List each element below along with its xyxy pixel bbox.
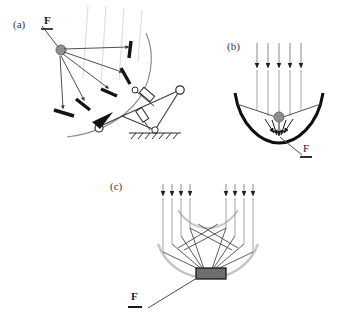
- panel-a-pivot-rim: [132, 87, 138, 93]
- panel-a-focus-label: F: [44, 14, 51, 26]
- panel-c-reflector-arc-upper: [178, 210, 238, 228]
- panel-a-focal-rays: [60, 47, 128, 108]
- panel-c-incident-rays-left: [163, 184, 190, 196]
- panel-a-label: (a): [13, 18, 26, 31]
- panel-a-pivot-outer: [176, 86, 184, 94]
- figure-root: F (a): [0, 0, 339, 327]
- panel-a-pivot-ground: [152, 127, 158, 133]
- panel-c-receiver: [196, 268, 226, 279]
- panel-b-incident-rays-lower: [257, 70, 301, 116]
- panel-a-ground: [129, 133, 181, 139]
- solar-concentrator-figure: F (a): [0, 0, 339, 327]
- panel-c-focus-label: F: [131, 290, 138, 302]
- panel-a: F (a): [13, 6, 184, 139]
- panel-a-incident-rays: [83, 6, 142, 84]
- panel-b-focus-label: F: [303, 142, 309, 154]
- panel-b-focal-node: [274, 112, 284, 122]
- panel-b-label: (b): [227, 40, 240, 53]
- panel-c-focus-leader: [148, 278, 197, 308]
- panel-c-incident-rays-right: [226, 184, 253, 196]
- panel-a-actuator-lower: [136, 108, 150, 130]
- panel-b-incident-rays: [257, 43, 301, 68]
- panel-b: F (b): [227, 40, 323, 157]
- panel-c-label: (c): [110, 180, 123, 193]
- panel-c: F (c): [110, 180, 258, 308]
